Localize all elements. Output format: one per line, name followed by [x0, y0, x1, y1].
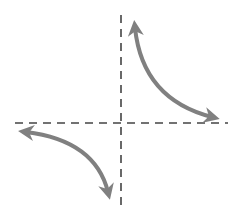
lower-left-branch — [26, 132, 108, 192]
diagram-canvas — [0, 0, 251, 210]
hyperbola-diagram — [0, 0, 251, 210]
upper-right-branch — [135, 28, 212, 117]
